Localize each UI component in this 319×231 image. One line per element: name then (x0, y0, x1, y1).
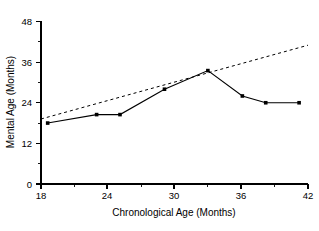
series-normal-reference-line (41, 45, 308, 119)
chart-figure: 48 36 24 12 0 18 24 30 36 42 Chronologic… (0, 0, 319, 231)
x-tick-label-36: 36 (236, 190, 247, 201)
x-axis-tick-labels: 18 24 30 36 42 (36, 190, 314, 201)
data-point-marker (206, 69, 210, 73)
data-point-marker (297, 101, 301, 105)
x-axis-title: Chronological Age (Months) (112, 207, 235, 218)
y-axis-major-ticks (36, 22, 41, 185)
data-point-marker (163, 87, 167, 91)
data-point-marker (264, 101, 268, 105)
data-point-marker (95, 113, 99, 117)
series-observed-line (48, 71, 299, 123)
series-group (41, 45, 308, 125)
x-tick-label-24: 24 (102, 190, 113, 201)
x-tick-label-42: 42 (303, 190, 314, 201)
y-tick-label-0: 0 (27, 179, 32, 190)
x-axis-major-ticks (41, 184, 308, 189)
chart-plot-area: 48 36 24 12 0 18 24 30 36 42 Chronologic… (0, 0, 319, 231)
y-axis-tick-labels: 48 36 24 12 0 (21, 16, 32, 190)
y-tick-label-48: 48 (21, 16, 32, 27)
x-tick-label-30: 30 (169, 190, 180, 201)
y-axis-title: Mental Age (Months) (5, 56, 16, 148)
x-tick-label-18: 18 (36, 190, 47, 201)
y-tick-label-24: 24 (21, 97, 32, 108)
y-tick-label-36: 36 (21, 57, 32, 68)
data-point-marker (118, 113, 122, 117)
data-point-marker (241, 94, 245, 98)
y-tick-label-12: 12 (21, 138, 32, 149)
data-point-marker (46, 121, 50, 125)
